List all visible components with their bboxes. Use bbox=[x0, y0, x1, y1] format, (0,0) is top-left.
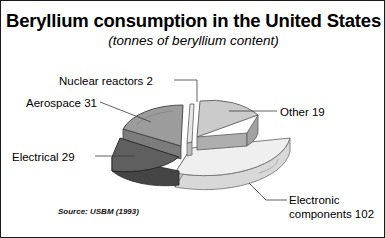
source-note: Source: USBM (1993) bbox=[58, 207, 139, 216]
slice-label-electrical: Electrical 29 bbox=[12, 151, 75, 165]
chart-figure: Beryllium consumption in the United Stat… bbox=[0, 0, 385, 238]
slice-label-electronic-line1: Electronic bbox=[289, 194, 340, 206]
slice-label-electronic-line2: components 102 bbox=[289, 208, 374, 220]
slice-label-electronic-components: Electronic components 102 bbox=[289, 194, 374, 221]
slice-label-aerospace: Aerospace 31 bbox=[26, 97, 97, 111]
pie-slice-other bbox=[197, 100, 258, 150]
slice-label-other: Other 19 bbox=[280, 106, 325, 120]
slice-label-nuclear-reactors: Nuclear reactors 2 bbox=[59, 75, 153, 89]
